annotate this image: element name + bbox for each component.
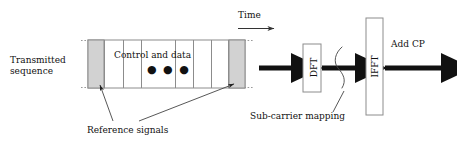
subcarrier-mapping-leader: [333, 91, 344, 112]
transmitted-sequence-label: Transmitted sequence: [10, 55, 84, 77]
continuation-ellipsis: ● ● ●: [147, 64, 190, 75]
reference-block-right: [229, 40, 245, 88]
reference-leader-right: [139, 84, 234, 121]
reference-signals-label: Reference signals: [87, 125, 168, 136]
ifft-block-label: IFFT: [370, 47, 381, 87]
dft-block-label: DFT: [309, 48, 320, 88]
reference-block-left: [88, 40, 104, 88]
control-and-data-label: Control and data: [114, 50, 191, 61]
reference-leader-left: [100, 85, 113, 121]
diagram-canvas: Transmitted sequence Control and data ● …: [0, 0, 457, 142]
add-cp-label: Add CP: [391, 39, 425, 50]
subcarrier-mapping-label: Sub-carrier mapping: [250, 111, 345, 122]
time-axis-label: Time: [238, 10, 261, 21]
